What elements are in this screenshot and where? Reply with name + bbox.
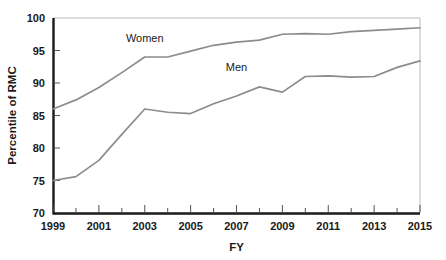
- x-axis-tick-label: 2007: [224, 220, 248, 232]
- y-axis-title: Percentile of RMC: [6, 66, 18, 164]
- y-axis-tick-label: 90: [33, 77, 45, 89]
- series-label-men: Men: [226, 61, 247, 73]
- x-axis-tick-label: 2015: [408, 220, 432, 232]
- axis-lines: [54, 18, 421, 214]
- x-axis-title: FY: [229, 241, 244, 253]
- chart-canvas: 7075808590951001999200120032005200720092…: [0, 0, 446, 260]
- x-axis-tick-label: 1999: [41, 220, 65, 232]
- x-axis-tick-label: 2003: [133, 220, 157, 232]
- y-axis-tick-label: 95: [33, 45, 45, 57]
- y-axis-tick-label: 100: [27, 12, 45, 24]
- y-axis-tick-label: 80: [33, 142, 45, 154]
- x-axis-tick-label: 2011: [316, 220, 340, 232]
- y-axis-tick-label: 85: [33, 110, 45, 122]
- plot-frame: [53, 18, 420, 213]
- x-axis-tick-label: 2005: [178, 220, 202, 232]
- series-label-women: Women: [126, 32, 164, 44]
- y-axis-tick-label: 75: [33, 175, 45, 187]
- x-axis-tick-label: 2013: [362, 220, 386, 232]
- x-axis-tick-label: 2001: [87, 220, 111, 232]
- data-line-men: [53, 61, 420, 181]
- y-axis-tick-label: 70: [33, 207, 45, 219]
- line-chart: 7075808590951001999200120032005200720092…: [0, 0, 446, 260]
- x-axis-tick-label: 2009: [270, 220, 294, 232]
